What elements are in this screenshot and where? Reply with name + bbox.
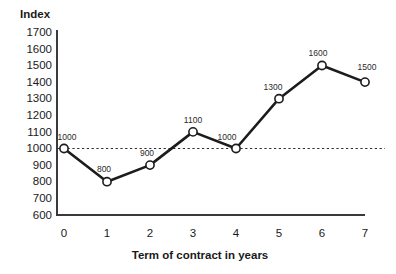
x-tick-label: 7 <box>362 227 368 239</box>
x-tick-label: 0 <box>61 227 67 239</box>
x-tick-label: 3 <box>190 227 196 239</box>
x-tick-label: 2 <box>147 227 153 239</box>
y-tick-label: 1400 <box>26 76 52 88</box>
y-tick-label: 1700 <box>26 26 52 38</box>
data-point-marker[interactable] <box>60 144 68 152</box>
x-tick-label: 4 <box>233 227 240 239</box>
x-tick-label: 5 <box>276 227 282 239</box>
y-tick-label: 600 <box>33 209 52 221</box>
y-tick-label: 1500 <box>26 59 52 71</box>
data-point-marker[interactable] <box>189 128 197 136</box>
data-point-marker[interactable] <box>318 61 326 69</box>
data-point-label: 1100 <box>184 115 203 125</box>
data-point-label: 800 <box>97 164 111 174</box>
data-point-label: 1000 <box>58 132 77 142</box>
x-axis-title: Term of contract in years <box>132 249 269 261</box>
data-point-label: 1500 <box>358 62 377 72</box>
data-point-marker[interactable] <box>232 144 240 152</box>
data-point-label: 900 <box>140 148 154 158</box>
data-point-label: 1000 <box>218 132 237 142</box>
line-chart: Index 1700 1600 1500 1400 1300 1200 1100… <box>0 0 396 274</box>
x-tick-labels: 0 1 2 3 4 5 6 7 <box>61 227 368 239</box>
data-point-marker[interactable] <box>361 78 369 86</box>
y-tick-label: 1000 <box>26 142 52 154</box>
y-tick-labels: 1700 1600 1500 1400 1300 1200 1100 1000 … <box>26 26 52 221</box>
data-point-label: 1600 <box>309 48 328 58</box>
y-tick-label: 900 <box>33 159 52 171</box>
y-tick-label: 1600 <box>26 43 52 55</box>
data-point-marker[interactable] <box>103 178 111 186</box>
data-point-marker[interactable] <box>275 95 283 103</box>
y-tick-label: 1300 <box>26 92 52 104</box>
data-point-marker[interactable] <box>146 161 154 169</box>
x-tick-label: 6 <box>319 227 325 239</box>
x-tick-label: 1 <box>104 227 110 239</box>
y-tick-label: 800 <box>33 175 52 187</box>
chart-canvas: Index 1700 1600 1500 1400 1300 1200 1100… <box>0 0 396 274</box>
y-axis-title: Index <box>20 8 51 20</box>
y-tick-label: 700 <box>33 192 52 204</box>
y-tick-label: 1200 <box>26 109 52 121</box>
y-tick-label: 1100 <box>27 126 52 138</box>
data-point-label: 1300 <box>264 82 283 92</box>
